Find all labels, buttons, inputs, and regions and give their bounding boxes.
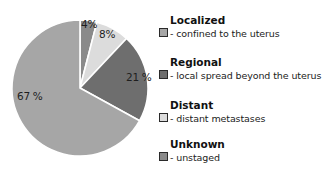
- legend-swatch-localized: [159, 28, 168, 37]
- slice-label-regional: 21 %: [126, 71, 151, 83]
- legend-item-distant: Distant - distant metastases: [159, 99, 323, 135]
- pie-chart: [0, 0, 160, 176]
- legend-title: Distant: [170, 99, 213, 111]
- legend-title: Unknown: [170, 138, 225, 150]
- legend-item-unknown: Unknown - unstaged: [159, 138, 323, 174]
- legend-description: - unstaged: [170, 152, 220, 163]
- legend-description: - local spread beyond the uterus: [170, 70, 321, 81]
- legend-swatch-unknown: [159, 152, 168, 161]
- slice-label-localized: 67 %: [17, 90, 42, 102]
- legend-description: - confined to the uterus: [170, 28, 280, 39]
- legend-swatch-regional: [159, 70, 168, 79]
- slice-label-unknown: 4%: [81, 18, 97, 30]
- legend-item-localized: Localized - confined to the uterus: [159, 14, 323, 50]
- stage-distribution-chart: 4% 8% 21 % 67 % Localized - confined to …: [0, 0, 323, 176]
- legend-item-regional: Regional - local spread beyond the uteru…: [159, 56, 323, 92]
- legend-title: Localized: [170, 14, 225, 26]
- slice-label-distant: 8%: [99, 28, 115, 40]
- legend-description: - distant metastases: [170, 113, 265, 124]
- legend-title: Regional: [170, 56, 222, 68]
- legend-swatch-distant: [159, 113, 168, 122]
